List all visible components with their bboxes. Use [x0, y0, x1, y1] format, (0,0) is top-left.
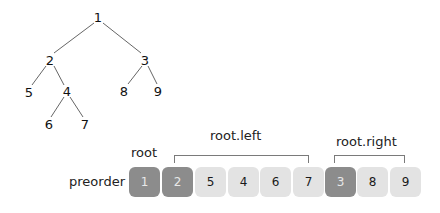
array-cell: 2: [162, 167, 193, 197]
preorder-label: preorder: [69, 174, 125, 189]
tree-node-9: 9: [154, 84, 162, 99]
tree-node-5: 5: [25, 85, 33, 100]
edge-4-6: [51, 97, 64, 117]
array-cell: 9: [390, 167, 421, 197]
array-cell: 8: [357, 167, 388, 197]
array-cell: 6: [260, 167, 291, 197]
tree-node-2: 2: [46, 53, 54, 68]
edge-3-9: [148, 66, 157, 84]
edge-1-3: [103, 23, 141, 53]
tree-node-8: 8: [120, 84, 128, 99]
edge-1-2: [54, 23, 94, 53]
tree-node-6: 6: [45, 117, 53, 132]
root-left-bracket: [174, 155, 309, 163]
edge-2-5: [32, 66, 46, 85]
array-cell: 1: [129, 167, 160, 197]
root-left-annotation: root.left: [210, 128, 261, 143]
tree-node-4: 4: [63, 84, 71, 99]
array-cell: 3: [325, 167, 356, 197]
edge-4-7: [70, 97, 83, 117]
tree-node-1: 1: [94, 10, 102, 25]
tree-node-3: 3: [141, 53, 149, 68]
array-cell: 7: [293, 167, 324, 197]
root-annotation: root: [131, 145, 157, 160]
root-right-bracket: [334, 155, 405, 163]
root-right-annotation: root.right: [336, 134, 397, 149]
array-cell: 5: [195, 167, 226, 197]
array-cell: 4: [228, 167, 259, 197]
edge-2-4: [54, 66, 64, 85]
edge-3-8: [128, 66, 142, 84]
tree-node-7: 7: [81, 117, 89, 132]
